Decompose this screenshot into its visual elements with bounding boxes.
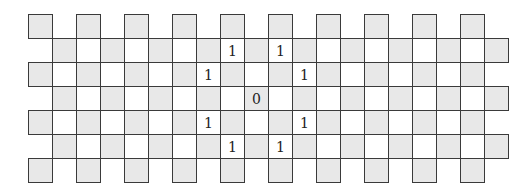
board-cell [436,86,461,111]
board-cell [364,38,389,63]
board-cell [172,62,197,87]
board-cell [76,134,101,159]
board-cell [28,110,53,135]
board-cell [292,38,317,63]
board-cell [436,38,461,63]
board-cell: 1 [196,62,221,87]
board-cell [436,110,461,135]
board-cell: 1 [220,134,245,159]
board-cell [148,110,173,135]
board-cell [52,110,77,135]
board-cell [316,86,341,111]
board-cell [340,62,365,87]
board-cell [412,134,437,159]
board-cell [76,38,101,63]
board-cell [124,62,149,87]
board-cell [460,110,485,135]
board-cell [484,38,509,63]
board-cell [196,86,221,111]
board-cell [76,158,101,183]
board-cell [340,86,365,111]
board-cell [388,86,413,111]
board-cell [316,110,341,135]
board-cell [340,38,365,63]
cell-number: 1 [300,67,309,83]
board-cell [268,158,293,183]
board-cell: 1 [292,62,317,87]
cell-number: 1 [204,67,213,83]
board-cell [460,14,485,39]
board-cell [364,14,389,39]
board-cell [412,86,437,111]
board-cell [100,110,125,135]
board-cell [172,134,197,159]
board-cell [316,62,341,87]
board-cell [124,38,149,63]
board-cell: 1 [268,134,293,159]
board-cell [340,110,365,135]
board-cell [244,110,269,135]
board-cell [340,134,365,159]
board-cell [148,86,173,111]
cell-number: 1 [228,139,237,155]
board-cell [172,110,197,135]
cell-number: 1 [300,115,309,131]
board-cell [292,134,317,159]
board-cell [460,38,485,63]
board-cell [460,62,485,87]
board-cell [100,62,125,87]
board-cell [52,38,77,63]
board-cell [268,110,293,135]
board-cell: 1 [268,38,293,63]
board-cell [124,14,149,39]
board-cell [268,62,293,87]
cell-number: 1 [276,139,285,155]
board-cell [28,62,53,87]
board-cell [268,86,293,111]
board-cell [460,134,485,159]
board-cell [220,110,245,135]
board-cell [436,134,461,159]
board-cell [412,110,437,135]
board-cell [172,14,197,39]
board-cell [436,62,461,87]
board-cell [220,14,245,39]
board-cell [100,38,125,63]
board-cell [220,158,245,183]
board-cell [172,38,197,63]
board-cell [124,158,149,183]
board-cell [364,158,389,183]
board-cell [124,134,149,159]
cell-number: 0 [252,91,261,107]
board-cell [220,86,245,111]
board-cell [388,38,413,63]
board-cell [196,38,221,63]
board-cell [364,86,389,111]
board-cell [244,134,269,159]
board-cell: 1 [292,110,317,135]
board-cell [316,38,341,63]
board-cell [364,110,389,135]
board-cell [172,158,197,183]
board-cell [460,86,485,111]
board-cell [52,134,77,159]
board-cell [148,38,173,63]
board-cell [364,62,389,87]
board-cell [76,62,101,87]
board-cell [292,86,317,111]
board-cell [484,86,509,111]
board-cell: 1 [196,110,221,135]
board-cell [268,14,293,39]
board-cell [124,86,149,111]
board-cell [172,86,197,111]
board-cell [196,134,221,159]
board-cell [100,134,125,159]
board-cell [316,14,341,39]
board-cell [52,62,77,87]
board-cell [148,134,173,159]
board-cell [484,134,509,159]
board-cell [28,14,53,39]
board-cell [148,62,173,87]
board-cell [220,62,245,87]
board-cell [28,158,53,183]
